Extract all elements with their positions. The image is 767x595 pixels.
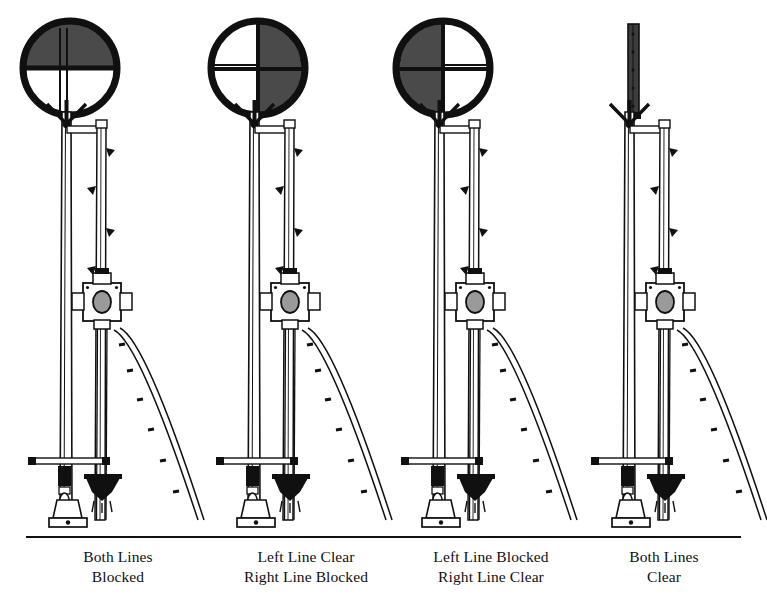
- panel-left-clear-right-blocked: [211, 21, 392, 527]
- signal-diagram: Both Lines Blocked Left Line Clear Right…: [0, 0, 767, 595]
- caption-panel-4-line-1: Both Lines: [629, 548, 698, 565]
- caption-panel-1-line-1: Both Lines: [83, 548, 152, 565]
- signal-disc: [211, 21, 305, 115]
- signal-assembly: [28, 100, 204, 527]
- signal-disc: [396, 21, 490, 115]
- panel-both-lines-blocked: [23, 21, 204, 527]
- caption-panel-1-line-2: Blocked: [92, 568, 145, 585]
- caption-panel-3-line-2: Right Line Clear: [438, 568, 545, 585]
- signal-assembly: [591, 100, 767, 527]
- caption-panel-2-line-1: Left Line Clear: [257, 548, 355, 565]
- panel-both-lines-clear: [591, 24, 767, 527]
- diagram-canvas: Both Lines Blocked Left Line Clear Right…: [0, 0, 767, 595]
- panel-left-blocked-right-clear: [396, 21, 577, 527]
- caption-panel-2-line-2: Right Line Blocked: [244, 568, 368, 585]
- signal-assembly: [401, 100, 577, 527]
- signal-disc: [23, 21, 117, 115]
- signal-assembly: [216, 100, 392, 527]
- caption-panel-4-line-2: Clear: [647, 568, 682, 585]
- caption-panel-3-line-1: Left Line Blocked: [433, 548, 548, 565]
